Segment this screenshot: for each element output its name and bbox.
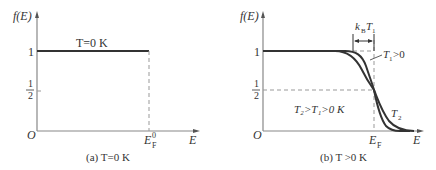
panel-b: k B T 1 T 1 >0 T 2 T₂>T₁>0 K f(E) 1 1 2 … [240, 9, 424, 164]
fermi-sub: F [152, 141, 157, 150]
y-axis-label: f(E) [240, 9, 259, 23]
tick-half-den: 2 [254, 90, 259, 101]
tick-1: 1 [28, 45, 34, 59]
x-axis-label: E [412, 133, 421, 147]
arrow-right-icon [368, 39, 373, 43]
y-axis-arrow-icon [261, 11, 265, 18]
origin-label: O [253, 128, 262, 142]
curve-label: T=0 K [76, 36, 108, 50]
curve2-label: T [391, 107, 398, 119]
caption: (a) T=0 K [86, 151, 130, 164]
width-label-t-sub: 1 [372, 27, 376, 35]
panel-a: f(E) 1 1 2 O T=0 K E F 0 E (a) T=0 K [13, 9, 200, 164]
fermi-sup: 0 [152, 131, 156, 140]
y-axis-label: f(E) [13, 9, 32, 23]
origin-label: O [27, 128, 36, 142]
arrow-left-icon [354, 39, 359, 43]
fermi-dirac-figure: f(E) 1 1 2 O T=0 K E F 0 E (a) T=0 K k B… [0, 0, 436, 170]
tick-half-num: 1 [28, 78, 33, 89]
curve-t2 [263, 51, 414, 131]
y-axis-arrow-icon [35, 11, 39, 18]
tick-half-den: 2 [28, 90, 33, 101]
fermi-label: E [368, 133, 377, 147]
relation-label: T₂>T₁>0 K [294, 103, 345, 115]
t1-leader-line [370, 55, 382, 60]
fermi-label: E [143, 133, 152, 147]
x-axis-label: E [188, 133, 197, 147]
curve1-rest: >0 [393, 48, 405, 60]
fermi-sub: F [377, 141, 382, 150]
caption: (b) T >0 K [320, 151, 367, 164]
tick-half-num: 1 [254, 78, 259, 89]
curve2-sub: 2 [398, 114, 402, 122]
tick-1: 1 [254, 45, 260, 59]
